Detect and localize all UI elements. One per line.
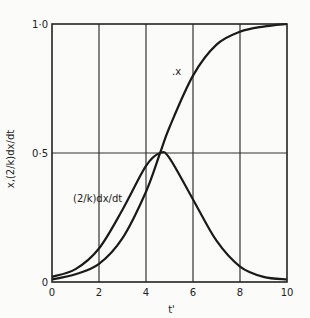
- x-axis-label: t': [168, 304, 175, 315]
- grid: [52, 24, 287, 282]
- x-tick-label: 0: [49, 287, 55, 298]
- y-tick-labels: 00·51·0: [32, 19, 48, 288]
- y-tick-label: 1·0: [32, 19, 48, 30]
- series-label-x: .x: [172, 66, 181, 77]
- x-tick-label: 6: [190, 287, 196, 298]
- series-label-derivative: (2/k)dx/dt: [73, 193, 122, 204]
- series-line-derivative: [52, 152, 287, 279]
- series-line-x: [52, 24, 287, 279]
- chart: 0246810 00·51·0 t' x,(2/k)dx/dt .x (2/k)…: [0, 0, 310, 318]
- x-tick-label: 4: [143, 287, 149, 298]
- x-tick-label: 10: [281, 287, 294, 298]
- x-tick-label: 8: [237, 287, 243, 298]
- y-tick-label: 0: [42, 277, 48, 288]
- y-tick-label: 0·5: [32, 148, 48, 159]
- x-tick-label: 2: [96, 287, 102, 298]
- y-axis-label: x,(2/k)dx/dt: [5, 130, 16, 188]
- curves: [52, 24, 287, 279]
- x-tick-labels: 0246810: [49, 287, 294, 298]
